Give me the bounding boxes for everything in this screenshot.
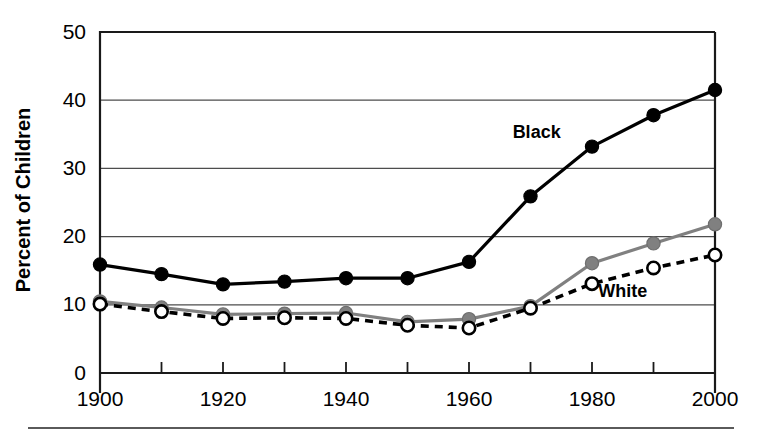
y-axis-title: Percent of Children — [12, 108, 34, 292]
data-point — [586, 277, 598, 289]
x-tick-label-2000: 2000 — [692, 387, 739, 410]
x-tick-label-1980: 1980 — [569, 387, 616, 410]
data-point — [463, 322, 475, 334]
series-label-white: White — [598, 281, 647, 301]
data-point — [94, 298, 106, 310]
x-tick-label-1960: 1960 — [446, 387, 493, 410]
data-point — [155, 305, 167, 317]
data-point — [216, 278, 229, 291]
data-point — [339, 272, 352, 285]
data-point — [709, 249, 721, 261]
y-tick-label-10: 10 — [63, 292, 86, 315]
data-point — [585, 257, 598, 270]
data-point — [647, 109, 660, 122]
y-tick-label-0: 0 — [74, 361, 86, 384]
data-point — [278, 275, 291, 288]
x-tick-label-1900: 1900 — [77, 387, 124, 410]
data-point — [217, 312, 229, 324]
data-point — [524, 302, 536, 314]
x-tick-label-1940: 1940 — [323, 387, 370, 410]
data-point — [708, 83, 721, 96]
data-point — [278, 312, 290, 324]
data-point — [708, 218, 721, 231]
data-point — [524, 190, 537, 203]
data-point — [401, 272, 414, 285]
chart-background — [0, 0, 762, 434]
data-point — [93, 258, 106, 271]
data-point — [462, 255, 475, 268]
data-point — [340, 312, 352, 324]
y-tick-label-30: 30 — [63, 156, 86, 179]
data-point — [401, 319, 413, 331]
y-tick-label-40: 40 — [63, 88, 86, 111]
y-tick-label-20: 20 — [63, 224, 86, 247]
x-tick-label-1920: 1920 — [200, 387, 247, 410]
data-point — [647, 262, 659, 274]
data-point — [647, 237, 660, 250]
series-label-black: Black — [513, 122, 562, 142]
y-tick-label-50: 50 — [63, 20, 86, 43]
data-point — [585, 140, 598, 153]
data-point — [155, 268, 168, 281]
line-chart-svg: 01020304050 190019201940196019802000 Bla… — [0, 0, 762, 434]
chart-figure: 01020304050 190019201940196019802000 Bla… — [0, 0, 762, 434]
